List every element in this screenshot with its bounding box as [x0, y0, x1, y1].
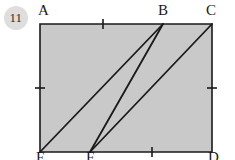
vertex-label-f: F — [86, 150, 94, 160]
figure-canvas — [0, 0, 235, 160]
vertex-label-b: B — [158, 3, 168, 18]
vertex-label-d: D — [208, 150, 219, 160]
vertex-label-e: E — [36, 150, 45, 160]
vertex-label-c: C — [206, 3, 216, 18]
geometry-figure: 11 A B C E F D — [0, 0, 235, 160]
vertex-label-a: A — [38, 3, 49, 18]
